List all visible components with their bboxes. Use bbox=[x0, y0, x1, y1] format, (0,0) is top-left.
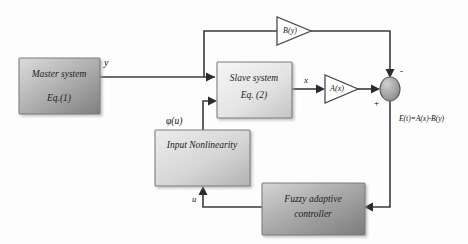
slave-system-block[interactable]: Slave system Eq. (2) bbox=[217, 62, 292, 118]
wire-gain-by-to-sum bbox=[311, 31, 390, 72]
input-nonlinearity-rect bbox=[155, 130, 250, 186]
fuzzy-controller-label-line2: controller bbox=[294, 209, 332, 219]
arrowhead-into-sum-left bbox=[371, 85, 380, 94]
gain-ax-label: A(x) bbox=[329, 84, 344, 93]
wire-controller-to-nonlinearity bbox=[203, 192, 271, 207]
arrowhead-into-gain-ax bbox=[316, 85, 325, 94]
master-system-rect bbox=[19, 58, 100, 114]
block-diagram-canvas: Master system Eq.(1) Slave system Eq. (2… bbox=[0, 0, 468, 244]
summing-junction-sign-left: + bbox=[374, 98, 379, 108]
gain-block-by[interactable]: B(y) bbox=[277, 17, 311, 45]
summing-junction-sign-top: - bbox=[400, 66, 403, 76]
slave-system-label-line1: Slave system bbox=[230, 73, 278, 83]
fuzzy-controller-label-line1: Fuzzy adaptive bbox=[283, 194, 341, 204]
gain-block-ax[interactable]: A(x) bbox=[325, 75, 358, 103]
master-system-block[interactable]: Master system Eq.(1) bbox=[19, 58, 100, 114]
master-system-label-line1: Master system bbox=[31, 69, 87, 79]
summing-junction-ellipse bbox=[380, 77, 400, 101]
input-nonlinearity-label: Input Nonlinearity bbox=[166, 140, 238, 150]
arrowhead-into-nonlinearity bbox=[199, 186, 208, 195]
gain-by-label: B(y) bbox=[283, 26, 297, 35]
signal-label-error: E(t)=A(x)-B(y) bbox=[398, 114, 445, 123]
arrowhead-into-slave-top bbox=[206, 73, 215, 82]
fuzzy-adaptive-controller-block[interactable]: Fuzzy adaptive controller bbox=[262, 183, 365, 235]
wire-sum-to-controller bbox=[366, 101, 390, 207]
block-diagram-svg: Master system Eq.(1) Slave system Eq. (2… bbox=[0, 0, 468, 244]
input-nonlinearity-block[interactable]: Input Nonlinearity bbox=[155, 130, 250, 186]
signal-label-y: y bbox=[103, 57, 109, 68]
slave-system-label-line2: Eq. (2) bbox=[240, 90, 267, 101]
arrowhead-into-slave-bottom bbox=[208, 97, 217, 106]
signal-label-u: u bbox=[192, 194, 196, 204]
master-system-label-line2: Eq.(1) bbox=[46, 93, 71, 104]
signal-label-phi-u: φ(u) bbox=[166, 116, 182, 127]
signal-label-x: x bbox=[303, 75, 308, 85]
wire-nonlinearity-to-slave bbox=[203, 101, 215, 130]
